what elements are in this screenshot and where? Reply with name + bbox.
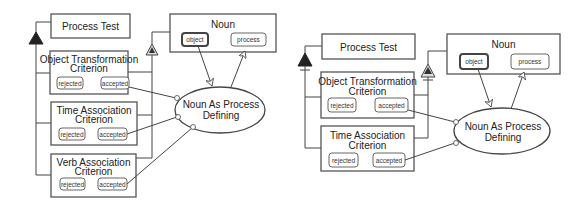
criterion-title-line: Criterion: [70, 63, 108, 74]
state-label: object: [186, 36, 204, 44]
process-test-label: Process Test: [62, 21, 119, 32]
aggregation-link-top: [36, 22, 51, 33]
condition-circle-icon: [176, 115, 181, 120]
criterion-title-line: Criterion: [75, 114, 113, 125]
criterion-title-line: Criterion: [349, 86, 387, 97]
generalization-link-top: [152, 32, 170, 44]
state-label: process: [237, 36, 261, 44]
condition-circle-icon: [454, 141, 459, 146]
condition-circle-icon: [191, 125, 196, 130]
state-label: accepted: [99, 181, 126, 189]
condition-circle-icon: [175, 96, 180, 101]
criterion-title-line: Criterion: [349, 140, 387, 151]
generalization-link-trunk: [136, 55, 152, 158]
criterion-title-line: Criterion: [75, 166, 113, 177]
state-label: rejected: [58, 80, 82, 88]
state-label: object: [465, 58, 483, 66]
input-link-arrow: [478, 69, 491, 107]
state-label: process: [519, 58, 543, 66]
aggregation-triangle-icon: [29, 32, 43, 44]
state-label: rejected: [330, 102, 354, 110]
process-label-line: Defining: [203, 110, 240, 121]
state-label: rejected: [61, 181, 85, 189]
output-link-arrow: [511, 72, 524, 109]
state-label: accepted: [102, 80, 129, 88]
opm-diagrams-canvas: Process Test Object Transformation Crite…: [0, 0, 581, 204]
process-label-line: Defining: [485, 132, 522, 143]
aggregation-link-top: [305, 46, 322, 54]
right-diagram: Process Test Object Transformation Crite…: [298, 34, 560, 171]
condition-link: [408, 110, 455, 122]
process-test-label: Process Test: [340, 42, 397, 53]
noun-label: Noun: [492, 39, 516, 50]
condition-circle-icon: [454, 120, 459, 125]
aggregation-triangle-icon: [298, 53, 312, 66]
state-label: rejected: [60, 131, 84, 139]
process-label-line: Noun As Process: [183, 99, 260, 110]
noun-label: Noun: [211, 19, 235, 30]
state-label: accepted: [376, 157, 403, 165]
state-label: rejected: [332, 157, 356, 165]
left-diagram: Process Test Object Transformation Crite…: [29, 14, 276, 197]
output-link-arrow: [231, 51, 245, 87]
generalization-link-top: [428, 51, 447, 64]
state-label: accepted: [378, 102, 405, 110]
state-label: accepted: [99, 131, 126, 139]
process-label-line: Noun As Process: [465, 121, 542, 132]
